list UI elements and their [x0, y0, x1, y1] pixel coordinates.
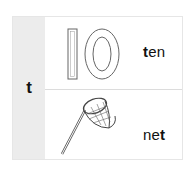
word-net: net [143, 126, 165, 143]
word-row-ten: ten [45, 17, 182, 90]
word-ten: ten [143, 43, 165, 60]
number-ten-icon [65, 26, 121, 82]
letter-column: t [13, 17, 45, 159]
target-letter: t [26, 78, 32, 98]
phonics-card: t ten net [12, 16, 183, 160]
butterfly-net-icon [59, 94, 123, 158]
word-row-net: net [45, 90, 182, 160]
